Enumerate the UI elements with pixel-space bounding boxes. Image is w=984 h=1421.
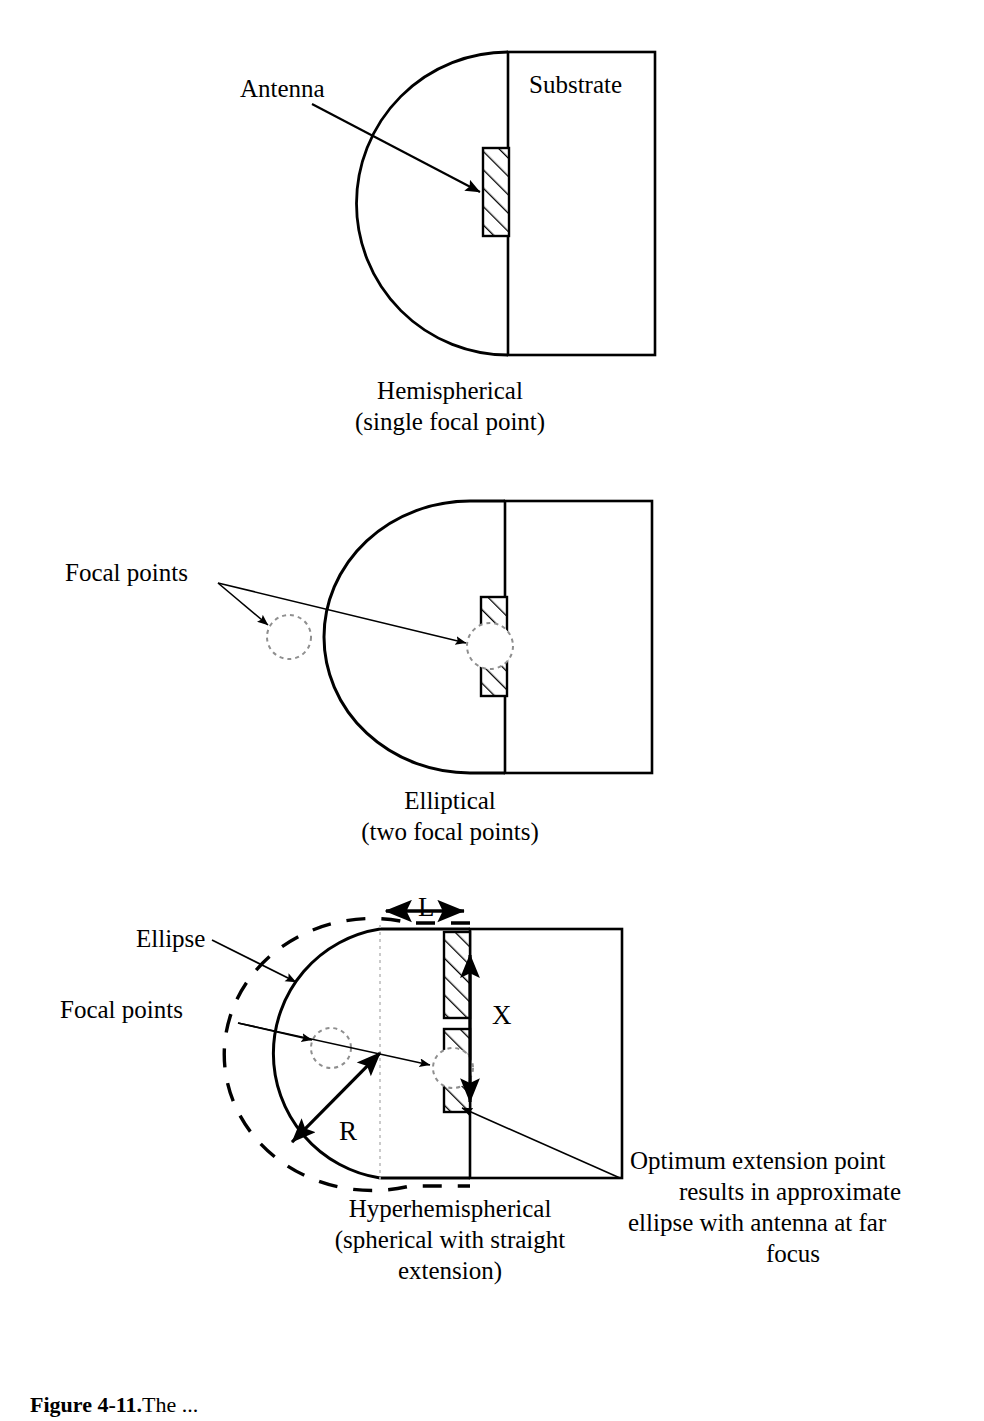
- caption-hyperhemispherical-line1: Hyperhemispherical: [250, 1194, 650, 1224]
- caption-hyperhemispherical-line2: (spherical with straight: [250, 1225, 650, 1255]
- focal-point-near-3: [311, 1028, 351, 1068]
- figure-caption: Figure 4-11.The ...: [8, 1366, 968, 1421]
- focal-point-far-2: [467, 623, 513, 669]
- optimum-note-leader-line: [462, 1108, 620, 1178]
- optimum-note-line1: Optimum extension point: [630, 1146, 960, 1177]
- caption-hyperhemispherical-line3: extension): [250, 1256, 650, 1286]
- focal-point-near-2: [267, 615, 311, 659]
- figure-caption-number: Figure 4-11.: [30, 1392, 142, 1417]
- optimum-note-line2: results in approximate: [630, 1177, 950, 1208]
- ellipse-label: Ellipse: [136, 924, 205, 954]
- caption-hemispherical-line2: (single focal point): [280, 407, 620, 437]
- optimum-note-line4: focus: [628, 1239, 958, 1270]
- antenna-label: Antenna: [240, 74, 325, 104]
- panel-hyperhemispherical: [212, 911, 622, 1191]
- dimension-x-label: X: [492, 1000, 512, 1032]
- antenna-leader-line: [312, 104, 480, 192]
- focal-points-label-3: Focal points: [60, 995, 183, 1025]
- caption-elliptical-line2: (two focal points): [300, 817, 600, 847]
- caption-hemispherical-line1: Hemispherical: [280, 376, 620, 406]
- antenna-block-1: [483, 148, 509, 236]
- focal-points-label-2: Focal points: [65, 558, 188, 588]
- figure-caption-text: The ...: [142, 1392, 198, 1417]
- caption-elliptical-line1: Elliptical: [300, 786, 600, 816]
- focal-leader-far-2: [218, 583, 466, 643]
- substrate-label: Substrate: [529, 70, 622, 100]
- optimum-note-line3: ellipse with antenna at far: [628, 1208, 958, 1239]
- dimension-l-label: L: [418, 892, 435, 924]
- panel-elliptical: [218, 501, 652, 773]
- substrate-rect-2: [505, 501, 652, 773]
- dimension-r-label: R: [339, 1116, 357, 1148]
- focal-point-far-3: [433, 1048, 473, 1088]
- substrate-rect-3: [470, 929, 622, 1178]
- antenna-block-3-upper: [444, 932, 470, 1018]
